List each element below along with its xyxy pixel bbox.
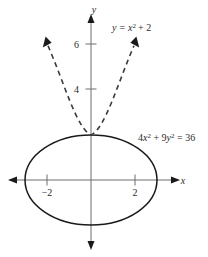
parabola-eq-exponent: 2 <box>133 22 137 30</box>
ellipse-eq-exp2: 2 <box>171 132 175 140</box>
ellipse-equation-label: 4x2+9y2=36 <box>138 132 195 144</box>
x-tick-label-neg2: −2 <box>42 187 53 198</box>
y-tick-label-4: 4 <box>74 84 79 95</box>
parabola-eq-plus: + 2 <box>138 22 151 33</box>
y-axis-bottom-arrow-icon <box>88 241 95 250</box>
parabola-right-arrow-icon <box>130 37 139 48</box>
ellipse-eq-op: + <box>153 132 159 143</box>
parabola-equation-label: y=x2+ 2 <box>111 22 151 34</box>
parabola-eq-lhs: y <box>111 22 117 33</box>
plot-canvas: x y −2 2 4 6 y=x2+ 2 4x2+9y2=36 <box>0 0 208 257</box>
parabola-left-arrow-icon <box>43 37 52 48</box>
math-figure: x y −2 2 4 6 y=x2+ 2 4x2+9y2=36 <box>0 0 208 257</box>
x-axis-right-arrow-icon <box>171 177 180 184</box>
ellipse-eq-exp1: 2 <box>147 132 151 140</box>
x-axis-label: x <box>180 175 186 186</box>
parabola-eq-sign: = <box>119 22 125 33</box>
ellipse-eq-rhs: 36 <box>185 132 195 143</box>
y-axis-top-arrow-icon <box>88 14 95 23</box>
svg-text:y=x2+ 2: y=x2+ 2 <box>111 22 151 34</box>
x-axis-left-arrow-icon <box>8 177 17 184</box>
ellipse-eq-sign: = <box>177 132 183 143</box>
x-tick-label-2: 2 <box>133 187 138 198</box>
y-axis-label: y <box>91 4 97 15</box>
y-tick-label-6: 6 <box>74 39 79 50</box>
svg-text:4x2+9y2=36: 4x2+9y2=36 <box>138 132 195 144</box>
